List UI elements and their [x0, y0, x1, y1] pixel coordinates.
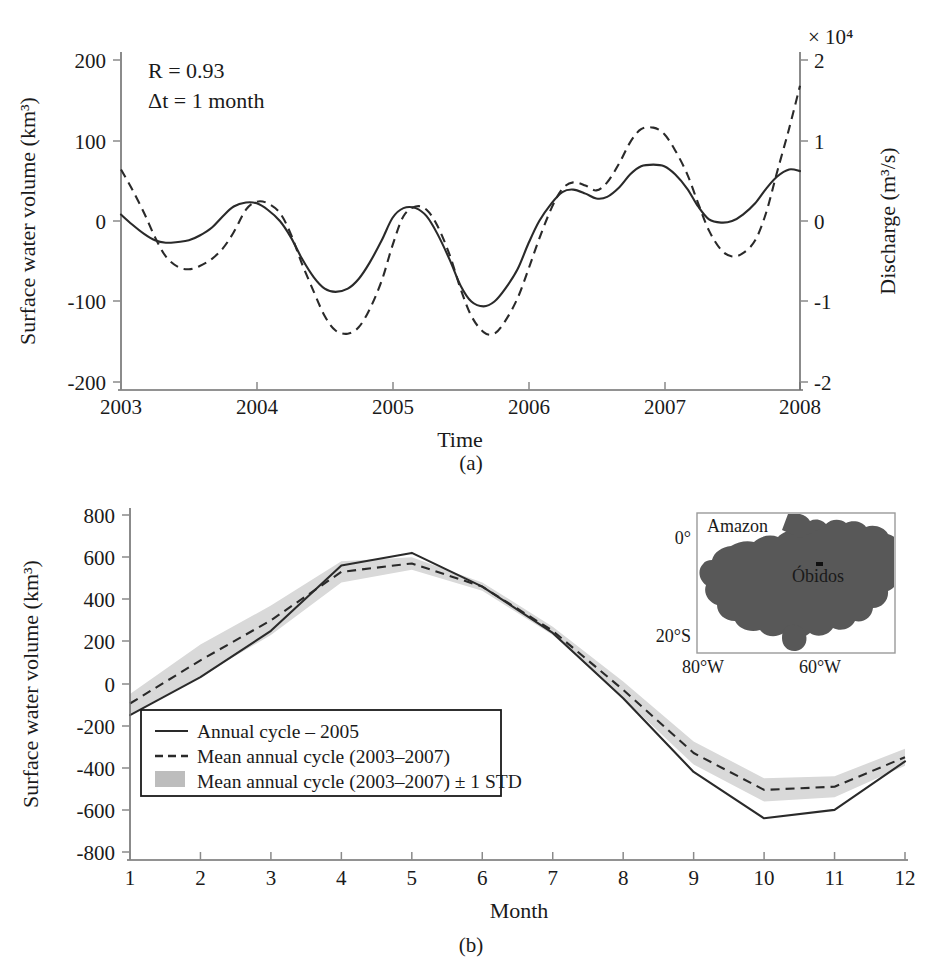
tick-label: -200	[77, 715, 116, 739]
panel-a: 200 100 0 -100 -200 Surface water volume…	[0, 0, 942, 490]
inset-map-title: Amazon	[707, 516, 768, 536]
tick-label: -800	[77, 841, 116, 865]
panel-a-left-axis	[113, 52, 121, 390]
legend-label-mean-annual-cycle: Mean annual cycle (2003–2007)	[197, 746, 450, 768]
legend-label-mean-annual-cycle-std: Mean annual cycle (2003–2007) ± 1 STD	[197, 771, 522, 793]
tick-label: 400	[84, 588, 116, 612]
panel-a-left-tick-labels: 200 100 0 -100 -200	[68, 49, 107, 395]
panel-a-y-axis-title: Surface water volume (km³)	[15, 97, 40, 345]
legend-label-annual-cycle-2005: Annual cycle – 2005	[197, 721, 359, 742]
tick-label: 4	[336, 866, 347, 890]
tick-label: -1	[814, 290, 832, 314]
panel-a-x-tick-labels: 2003 2004 2005 2006 2007 2008	[100, 395, 821, 419]
panel-b-y-axis	[122, 508, 130, 860]
tick-label: 3	[266, 866, 277, 890]
tick-label: 5	[407, 866, 418, 890]
panel-b: 800 600 400 200 0 -200 -400 -600 -800 Su…	[0, 490, 942, 979]
tick-label: -2	[814, 371, 832, 395]
tick-label: 1	[814, 130, 825, 154]
panel-b-x-axis-title: Month	[490, 898, 549, 923]
panel-a-y2-axis-title: Discharge (m³/s)	[875, 147, 900, 294]
tick-label: 8	[618, 866, 629, 890]
tick-label: 0	[96, 210, 107, 234]
tick-label: 10	[754, 866, 775, 890]
panel-a-right-axis	[800, 52, 808, 390]
panel-b-x-tick-labels: 123456789101112	[125, 866, 916, 890]
tick-label: -200	[68, 371, 107, 395]
panel-a-right-tick-labels: 2 1 0 -1 -2	[814, 49, 832, 395]
tick-label: -600	[77, 799, 116, 823]
panel-a-annotation-r: R = 0.93	[148, 58, 225, 83]
inset-map-lat-label-20s: 20°S	[656, 626, 691, 646]
tick-label: 2004	[236, 395, 279, 419]
panel-b-y-axis-title: Surface water volume (km³)	[18, 560, 43, 808]
tick-label: -100	[68, 290, 107, 314]
tick-label: 2007	[644, 395, 686, 419]
inset-map-station-label: Óbidos	[792, 565, 844, 586]
legend-swatch-band	[155, 771, 185, 787]
panel-a-surface-water-volume-curve	[121, 165, 800, 307]
tick-label: 9	[688, 866, 699, 890]
panel-b-legend: Annual cycle – 2005 Mean annual cycle (2…	[141, 710, 522, 796]
tick-label: 2	[814, 49, 825, 73]
panel-a-x-axis	[118, 382, 803, 390]
tick-label: 2	[195, 866, 206, 890]
tick-label: 2006	[508, 395, 550, 419]
tick-label: 0	[105, 673, 116, 697]
figure-root: 200 100 0 -100 -200 Surface water volume…	[0, 0, 942, 979]
panel-b-x-axis	[127, 852, 908, 860]
tick-label: 2005	[372, 395, 414, 419]
tick-label: 200	[84, 630, 116, 654]
tick-label: 100	[75, 130, 107, 154]
tick-label: 11	[824, 866, 844, 890]
tick-label: 2008	[779, 395, 821, 419]
inset-map-lon-label-80w: 80°W	[682, 657, 724, 677]
panel-b-svg: 800 600 400 200 0 -200 -400 -600 -800 Su…	[0, 490, 942, 979]
panel-b-letter: (b)	[459, 933, 484, 957]
panel-a-x-axis-title: Time	[437, 427, 483, 452]
tick-label: 200	[75, 49, 107, 73]
tick-label: 7	[547, 866, 558, 890]
panel-a-svg: 200 100 0 -100 -200 Surface water volume…	[0, 0, 942, 490]
inset-map-lon-label-60w: 60°W	[799, 657, 841, 677]
panel-a-right-axis-exponent: × 10⁴	[808, 25, 853, 49]
panel-b-y-tick-labels: 800 600 400 200 0 -200 -400 -600 -800	[77, 504, 116, 865]
tick-label: 0	[814, 210, 825, 234]
panel-a-discharge-curve	[121, 86, 800, 335]
panel-a-annotation-dt: Δt = 1 month	[148, 88, 264, 113]
tick-label: 1	[125, 866, 136, 890]
tick-label: 2003	[100, 395, 142, 419]
tick-label: 12	[895, 866, 916, 890]
inset-map-lat-label-0: 0°	[675, 528, 691, 548]
tick-label: 6	[477, 866, 488, 890]
tick-label: -400	[77, 757, 116, 781]
tick-label: 800	[84, 504, 116, 528]
panel-b-inset-map: Amazon Óbidos 0° 20°S 80°W 60°W	[656, 513, 902, 677]
panel-a-letter: (a)	[459, 451, 482, 475]
tick-label: 600	[84, 546, 116, 570]
